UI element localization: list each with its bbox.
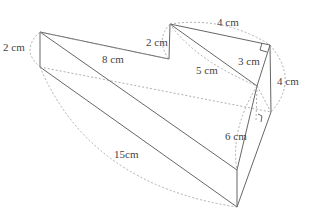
label-right-height: 4 cm	[277, 76, 299, 87]
hidden-edge-2	[257, 86, 271, 112]
right-angle-mark-bottom	[258, 114, 262, 122]
edge-bottom-diagonal	[40, 67, 237, 207]
label-top-left-edge: 8 cm	[102, 54, 124, 65]
label-hypotenuse: 5 cm	[196, 65, 218, 76]
label-mid-height: 2 cm	[146, 37, 168, 48]
edge-front-top	[237, 86, 257, 170]
edge-mid-vertical	[169, 24, 170, 59]
edge-back-bottom	[237, 112, 271, 207]
label-long-edge: 15cm	[114, 149, 138, 160]
dim-arc-left	[30, 32, 40, 67]
prism-diagram	[0, 0, 310, 219]
label-short-leg: 3 cm	[238, 56, 260, 67]
hidden-edge-bottom	[40, 67, 271, 112]
edge-right-vertical	[270, 45, 271, 112]
label-top-right-edge: 4 cm	[217, 17, 239, 28]
label-lower-leg: 6 cm	[225, 131, 247, 142]
label-left-height: 2 cm	[3, 42, 25, 53]
